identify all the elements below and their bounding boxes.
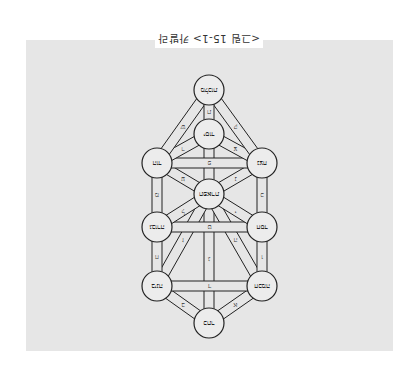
sephirah-label-chesed: חסד <box>256 223 268 231</box>
sephirah-label-chokmah: חכמה <box>254 282 270 290</box>
sephirah-label-binah: בינה <box>151 282 163 290</box>
path-label: ק <box>233 123 237 131</box>
sephirah-label-netzach: נצח <box>257 159 267 167</box>
path-label: פ <box>207 159 211 167</box>
path-label: ח <box>155 253 159 261</box>
path-label: ע <box>181 175 185 183</box>
sephirah-label-hod: הוד <box>152 159 161 167</box>
path-label: צ <box>233 145 237 153</box>
path-label: כ <box>260 191 264 199</box>
path-label: י <box>234 207 236 215</box>
path-label: ז <box>182 236 184 244</box>
path-label: נ <box>234 175 236 183</box>
caption-text: <그림 15-1> 카발라 <box>158 32 260 47</box>
sephirah-label-yesod: יסוד <box>203 130 214 138</box>
sephirah-label-tiphareth: תפארת <box>199 190 219 198</box>
path-label: ש <box>180 123 185 131</box>
sephirah-label-kether: כתר <box>203 319 215 327</box>
path-label: ה <box>233 236 237 244</box>
path-label: ר <box>181 145 184 153</box>
path-label: ו <box>261 253 263 261</box>
sephirah-label-malkuth: מלכות <box>201 86 218 94</box>
tree-of-life-diagram: אבגדהוזחטיכלמנסעפצקרשת כתרחכמהבינהחסדגבו… <box>0 0 414 368</box>
path-label: מ <box>155 191 159 199</box>
path-label: ל <box>181 207 185 215</box>
path-label: א <box>233 301 237 309</box>
figure-caption: <그림 15-1> 카발라 <box>155 31 263 48</box>
path-label: ט <box>207 223 211 231</box>
path-label: ת <box>207 108 211 116</box>
sephirah-label-geburah: גבורה <box>149 223 165 231</box>
